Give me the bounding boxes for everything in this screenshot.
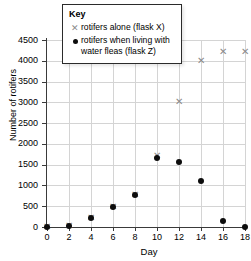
data-point-dot	[242, 224, 248, 230]
y-axis-tick-label: 1500	[0, 159, 38, 169]
legend-title: Key	[69, 9, 176, 19]
legend-entry-flask-x: ✕ rotifers alone (flask X)	[69, 22, 176, 33]
y-axis-tick	[42, 165, 46, 166]
x-axis-tick-label: 14	[191, 232, 211, 242]
data-point-dot	[44, 224, 50, 230]
gridline-horizontal	[47, 123, 245, 124]
y-axis-tick-label: 2500	[0, 118, 38, 128]
x-axis-tick	[223, 227, 224, 231]
y-axis-tick-label: 4000	[0, 55, 38, 65]
data-point-cross: ✕	[175, 97, 183, 107]
legend-entry-label: rotifers when living with water fleas (f…	[81, 35, 176, 56]
x-axis-tick	[135, 227, 136, 231]
y-axis-tick	[42, 123, 46, 124]
data-point-dot	[88, 215, 94, 221]
x-axis-tick-label: 16	[213, 232, 233, 242]
x-axis-tick	[157, 227, 158, 231]
x-axis-line	[45, 227, 246, 228]
gridline-vertical	[201, 40, 202, 227]
x-axis-tick-label: 12	[169, 232, 189, 242]
data-point-cross: ✕	[241, 47, 249, 57]
plot-area	[47, 40, 245, 227]
y-axis-tick	[42, 185, 46, 186]
gridline-vertical	[113, 40, 114, 227]
y-axis-tick-label: 2000	[0, 138, 38, 148]
x-axis-tick-label: 0	[37, 232, 57, 242]
y-axis-tick	[42, 40, 46, 41]
y-axis-tick-label: 3500	[0, 76, 38, 86]
x-axis-tick-label: 8	[125, 232, 145, 242]
y-axis-tick-label: 3000	[0, 97, 38, 107]
legend-entry-label: rotifers alone (flask X)	[81, 22, 165, 33]
y-axis-tick-label: 0	[0, 222, 38, 232]
x-axis-tick-label: 10	[147, 232, 167, 242]
data-point-dot	[176, 159, 182, 165]
gridline-vertical	[69, 40, 70, 227]
y-axis-tick	[42, 144, 46, 145]
data-point-dot	[66, 223, 72, 229]
y-axis-line	[46, 38, 47, 229]
gridline-horizontal	[47, 144, 245, 145]
x-axis-tick-label: 18	[235, 232, 251, 242]
y-axis-tick	[42, 102, 46, 103]
data-point-dot	[198, 178, 204, 184]
x-axis-tick-label: 2	[59, 232, 79, 242]
x-axis-title: Day	[47, 246, 251, 257]
x-axis-tick	[179, 227, 180, 231]
y-axis-tick	[42, 82, 46, 83]
x-axis-tick-label: 4	[81, 232, 101, 242]
gridline-vertical	[223, 40, 224, 227]
data-point-dot	[220, 218, 226, 224]
y-axis-tick-label: 500	[0, 201, 38, 211]
gridline-vertical	[91, 40, 92, 227]
y-axis-tick	[42, 61, 46, 62]
x-axis-tick	[113, 227, 114, 231]
x-axis-tick	[91, 227, 92, 231]
gridline-horizontal	[47, 206, 245, 207]
legend-key-box: Key ✕ rotifers alone (flask X) rotifers …	[62, 4, 182, 64]
data-point-dot	[154, 155, 160, 161]
x-axis-tick	[201, 227, 202, 231]
data-point-dot	[110, 204, 116, 210]
data-point-cross: ✕	[197, 56, 205, 66]
x-axis-tick-label: 6	[103, 232, 123, 242]
gridline-horizontal	[47, 185, 245, 186]
data-point-cross: ✕	[219, 47, 227, 57]
y-axis-tick-label: 4500	[0, 35, 38, 45]
gridline-vertical	[245, 40, 246, 227]
gridline-horizontal	[47, 102, 245, 103]
dot-marker-icon	[69, 35, 81, 44]
gridline-vertical	[179, 40, 180, 227]
cross-marker-icon: ✕	[69, 22, 81, 33]
legend-entry-flask-z: rotifers when living with water fleas (f…	[69, 35, 176, 56]
gridline-vertical	[157, 40, 158, 227]
scatter-chart: Number of rotifers Day Key ✕ rotifers al…	[0, 0, 251, 261]
gridline-horizontal	[47, 82, 245, 83]
gridline-horizontal	[47, 165, 245, 166]
y-axis-tick	[42, 206, 46, 207]
data-point-dot	[132, 192, 138, 198]
y-axis-tick-label: 1000	[0, 180, 38, 190]
